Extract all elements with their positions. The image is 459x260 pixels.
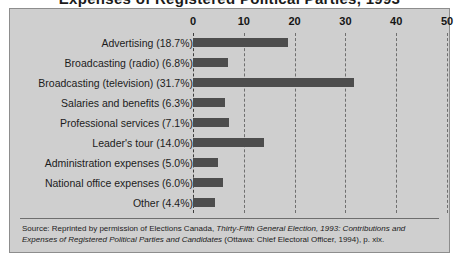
- bar-label: Advertising (18.7%): [101, 33, 193, 53]
- bar: [193, 138, 264, 147]
- x-tick-20: 20: [288, 15, 300, 27]
- x-tick-40: 40: [390, 15, 402, 27]
- source-suffix: (Ottawa: Chief Electoral Officer, 1994),…: [222, 235, 384, 244]
- bar-label: Leader's tour (14.0%): [92, 133, 193, 153]
- bar-label: Broadcasting (television) (31.7%): [38, 73, 193, 93]
- bar-row: Leader's tour (14.0%): [10, 133, 451, 153]
- x-tick-50: 50: [441, 15, 453, 27]
- bar: [193, 58, 228, 67]
- source-citation: Source: Reprinted by permission of Elect…: [22, 223, 439, 245]
- bar-label: Professional services (7.1%): [60, 113, 193, 133]
- bar-label: Administration expenses (5.0%): [45, 153, 193, 173]
- cut-off-title: Expenses of Registered Political Parties…: [0, 0, 459, 7]
- bar-rows: Advertising (18.7%)Broadcasting (radio) …: [10, 33, 451, 213]
- chart-page: Expenses of Registered Political Parties…: [0, 0, 459, 260]
- bar-label: Salaries and benefits (6.3%): [61, 93, 193, 113]
- bar: [193, 158, 218, 167]
- bar-row: Salaries and benefits (6.3%): [10, 93, 451, 113]
- bar-row: Professional services (7.1%): [10, 113, 451, 133]
- bar: [193, 78, 354, 87]
- bar: [193, 118, 229, 127]
- bar-row: Administration expenses (5.0%): [10, 153, 451, 173]
- bar-label: National office expenses (6.0%): [45, 173, 193, 193]
- bar-row: National office expenses (6.0%): [10, 173, 451, 193]
- x-tick-10: 10: [238, 15, 250, 27]
- x-tick-30: 30: [339, 15, 351, 27]
- bar: [193, 198, 215, 207]
- chart-panel: 01020304050 Advertising (18.7%)Broadcast…: [9, 8, 450, 253]
- plot-area: 01020304050 Advertising (18.7%)Broadcast…: [10, 9, 451, 217]
- bar-row: Other (4.4%): [10, 193, 451, 213]
- bar-label: Broadcasting (radio) (6.8%): [65, 53, 193, 73]
- bar-label: Other (4.4%): [133, 193, 193, 213]
- source-prefix: Source: Reprinted by permission of Elect…: [22, 224, 216, 233]
- bar: [193, 98, 225, 107]
- bar-row: Broadcasting (radio) (6.8%): [10, 53, 451, 73]
- footer-divider: [20, 218, 439, 219]
- bar-row: Advertising (18.7%): [10, 33, 451, 53]
- bar: [193, 38, 288, 47]
- bar-row: Broadcasting (television) (31.7%): [10, 73, 451, 93]
- x-tick-0: 0: [190, 15, 196, 27]
- bar: [193, 178, 223, 187]
